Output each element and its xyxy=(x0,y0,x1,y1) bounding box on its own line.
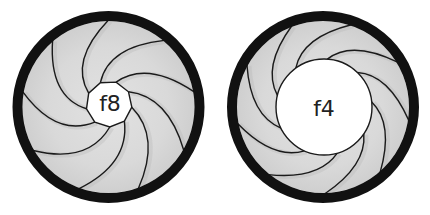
aperture-diagram: f8 f4 xyxy=(0,0,430,215)
f-stop-label-f4: f4 xyxy=(313,98,335,120)
f-stop-label-f8: f8 xyxy=(99,93,121,115)
aperture-illustration xyxy=(0,0,430,215)
